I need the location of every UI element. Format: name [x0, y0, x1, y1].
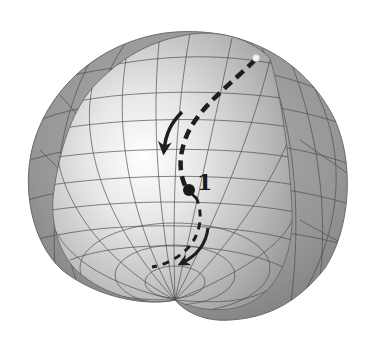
cardioid-surface-figure: 1: [0, 0, 370, 361]
start-point: [253, 55, 260, 62]
point-label: 1: [197, 169, 212, 195]
